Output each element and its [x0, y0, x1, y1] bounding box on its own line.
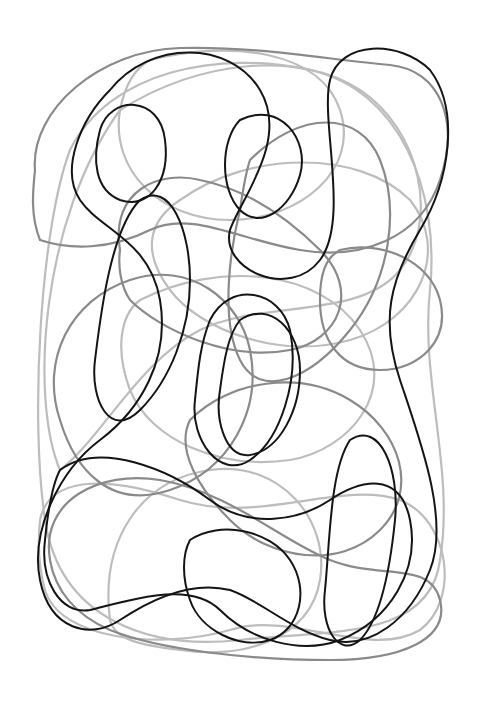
abstract-line-drawing	[0, 0, 502, 724]
artwork-canvas	[0, 0, 502, 724]
